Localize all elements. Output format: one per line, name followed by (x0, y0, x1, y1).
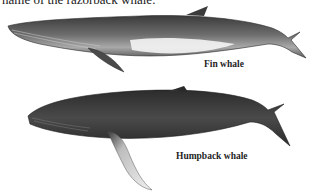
fin-whale-illustration (8, 6, 306, 72)
fin-whale-label: Fin whale (204, 59, 244, 69)
humpback-whale-label: Humpback whale (176, 151, 248, 161)
whale-illustrations (0, 0, 319, 192)
humpback-whale-illustration (28, 86, 290, 190)
